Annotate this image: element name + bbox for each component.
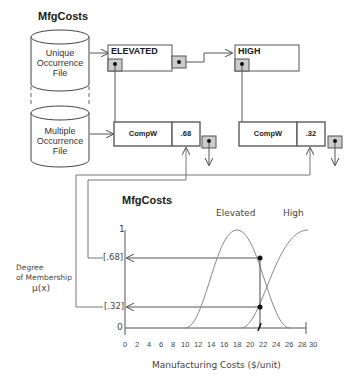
- x-tick: 8: [171, 340, 175, 349]
- x-tick: 14: [207, 340, 215, 349]
- unique-file-line: Unique: [31, 48, 89, 58]
- marker-68: [.68]: [103, 252, 123, 262]
- x-tick: 30: [309, 340, 317, 349]
- fuzzy-set-storage-diagram: MfgCosts Unique Occurrence File Multiple…: [0, 0, 352, 381]
- y-axis-label-line: Degree: [16, 263, 72, 273]
- y-axis-label: Degree of Membership μ(x): [16, 263, 72, 293]
- x-tick: 16: [220, 340, 228, 349]
- x-tick: 2: [135, 340, 139, 349]
- x-tick: 10: [181, 340, 189, 349]
- y-axis-top: 1: [119, 224, 125, 234]
- x-tick: 18: [233, 340, 241, 349]
- record-high-label: HIGH: [238, 46, 261, 56]
- x-tick: 28: [298, 340, 306, 349]
- unique-file-label: Unique Occurrence File: [31, 48, 89, 78]
- x-tick: 0: [123, 340, 127, 349]
- x-tick: 24: [272, 340, 280, 349]
- node-68-field: CompW: [114, 129, 172, 138]
- unique-file-line: Occurrence: [31, 58, 89, 68]
- multiple-file-line: Multiple: [31, 126, 89, 136]
- y-axis-label-line: μ(x): [16, 283, 72, 293]
- x-axis-ticks: 0 2 4 6 8 10 12 14 16 18 20 22 24 26 28 …: [123, 340, 313, 350]
- x-tick: 6: [159, 340, 163, 349]
- x-tick: 26: [285, 340, 293, 349]
- x-tick: 22: [259, 340, 267, 349]
- top-title: MfgCosts: [38, 10, 88, 22]
- x-tick: 20: [246, 340, 254, 349]
- unique-file-line: File: [31, 68, 89, 78]
- x-tick: 12: [194, 340, 202, 349]
- node-68-value: .68: [172, 129, 200, 138]
- record-elevated-label: ELEVATED: [111, 46, 158, 56]
- node-32-value: .32: [297, 129, 325, 138]
- y-axis-bottom: 0: [117, 322, 123, 332]
- node-32-field: CompW: [239, 129, 297, 138]
- multiple-file-label: Multiple Occurrence File: [31, 126, 89, 156]
- curve-label-elevated: Elevated: [216, 208, 255, 218]
- multiple-file-line: File: [31, 146, 89, 156]
- marker-32: [.32]: [104, 301, 124, 311]
- x-axis-label: Manufacturing Costs ($/unit): [152, 360, 281, 370]
- x-tick: 4: [147, 340, 151, 349]
- curve-label-high: High: [283, 208, 304, 218]
- y-axis-label-line: of Membership: [16, 273, 72, 283]
- chart-title: MfgCosts: [122, 194, 172, 206]
- multiple-file-line: Occurrence: [31, 136, 89, 146]
